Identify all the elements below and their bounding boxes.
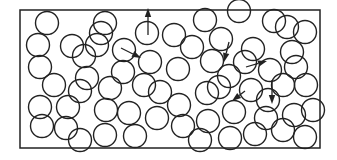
- particle: [163, 24, 186, 47]
- particle: [228, 0, 251, 23]
- particle-diagram: [0, 0, 337, 160]
- particle: [181, 36, 204, 59]
- particle: [146, 107, 169, 130]
- particle: [172, 115, 195, 138]
- particle: [118, 102, 141, 125]
- particle: [272, 119, 295, 142]
- particle: [124, 125, 147, 148]
- velocity-arrow-icon: [232, 91, 245, 101]
- particle: [223, 101, 246, 124]
- particle: [27, 34, 50, 57]
- particle: [240, 79, 263, 102]
- particle: [201, 50, 224, 73]
- velocity-arrow-icon: [121, 48, 141, 58]
- particle: [99, 77, 122, 100]
- particle: [194, 9, 217, 32]
- particle: [294, 126, 317, 149]
- particle: [242, 38, 265, 61]
- particle: [281, 41, 304, 64]
- particle: [94, 124, 117, 147]
- particles-group: [27, 0, 325, 152]
- particle: [139, 51, 162, 74]
- particle: [69, 80, 92, 103]
- particle: [295, 74, 318, 97]
- container-box: [20, 10, 320, 148]
- particle: [36, 12, 59, 35]
- particle: [55, 117, 78, 140]
- diagram-canvas: [0, 0, 337, 160]
- particle: [90, 22, 113, 45]
- particle: [76, 67, 99, 90]
- particle: [57, 96, 80, 119]
- particle: [167, 58, 190, 81]
- particle: [255, 107, 278, 130]
- particle: [210, 28, 233, 51]
- particle: [136, 22, 159, 45]
- particle: [112, 61, 135, 84]
- particle: [285, 56, 308, 79]
- velocity-arrow-icon: [223, 42, 229, 62]
- particle: [263, 10, 286, 33]
- particle: [133, 74, 156, 97]
- particle: [149, 81, 172, 104]
- particle: [43, 74, 66, 97]
- particle: [95, 99, 118, 122]
- particle: [94, 12, 117, 35]
- particle: [234, 51, 257, 74]
- particle: [219, 127, 242, 150]
- particle: [244, 123, 267, 146]
